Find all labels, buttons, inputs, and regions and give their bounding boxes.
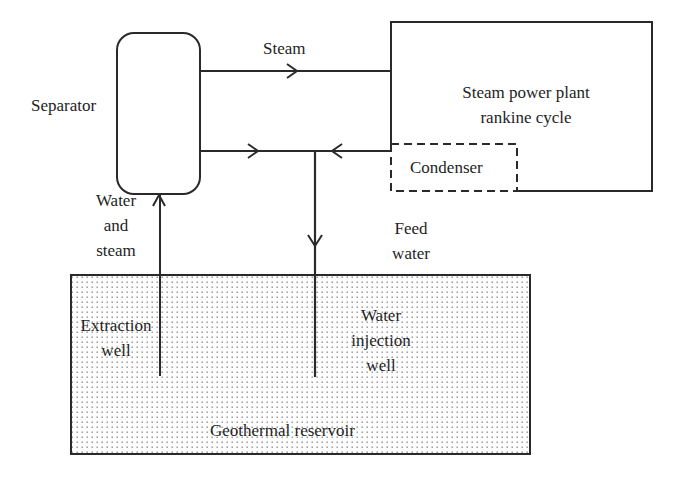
water-and-steam-line1: Water <box>76 188 156 213</box>
separator-vessel <box>117 33 200 194</box>
extraction-well-line1: Extraction <box>66 313 166 338</box>
feed-water-line1: Feed <box>371 216 451 241</box>
injection-well-line2: injection <box>331 328 431 353</box>
reservoir-label: Geothermal reservoir <box>210 418 355 443</box>
steam-line <box>200 64 391 78</box>
water-and-steam-label: Water and steam <box>76 188 156 263</box>
power-plant-label-line2: rankine cycle <box>426 105 626 130</box>
feed-water-line2: water <box>371 241 451 266</box>
injection-well-line1: Water <box>331 303 431 328</box>
power-plant-label: Steam power plant rankine cycle <box>426 80 626 130</box>
condenser-label: Condenser <box>410 155 483 180</box>
extraction-well-line2: well <box>66 338 166 363</box>
water-and-steam-line2: and <box>76 213 156 238</box>
feed-water-label: Feed water <box>371 216 451 266</box>
separator-liquid-line <box>200 144 391 158</box>
injection-well-label: Water injection well <box>331 303 431 378</box>
power-plant-label-line1: Steam power plant <box>426 80 626 105</box>
extraction-well-label: Extraction well <box>66 313 166 363</box>
water-and-steam-line3: steam <box>76 238 156 263</box>
steam-label: Steam <box>263 36 306 61</box>
injection-well-line3: well <box>331 353 431 378</box>
separator-label: Separator <box>31 93 96 118</box>
